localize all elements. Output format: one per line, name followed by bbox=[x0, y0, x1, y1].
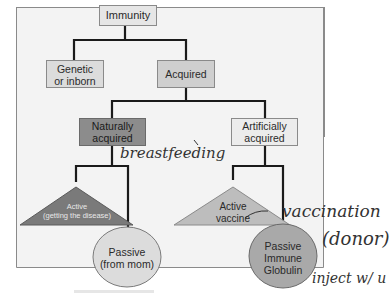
label-naturally-acquired: Naturally acquired bbox=[79, 120, 146, 144]
label-natural-passive: Passive (from mom) bbox=[93, 246, 161, 270]
label-artificially-acquired: Artificially acquired bbox=[231, 120, 298, 144]
label-artificial-passive: Passive Immune Globulin bbox=[249, 240, 317, 276]
label-immunity: Immunity bbox=[99, 9, 157, 22]
label-natural-active: Active (getting the disease) bbox=[26, 203, 128, 220]
annotation-vaccination: vaccination bbox=[282, 201, 381, 221]
annotation-donor: (donor) bbox=[322, 228, 389, 249]
annotation-breastfeeding: breastfeeding bbox=[120, 144, 225, 162]
label-artificial-active: Active vaccine bbox=[198, 201, 268, 224]
page-fragment bbox=[74, 290, 154, 293]
label-acquired: Acquired bbox=[157, 68, 215, 80]
annotation-inject: inject w/ u bbox=[312, 270, 386, 286]
label-genetic: Genetic or inborn bbox=[46, 63, 104, 87]
